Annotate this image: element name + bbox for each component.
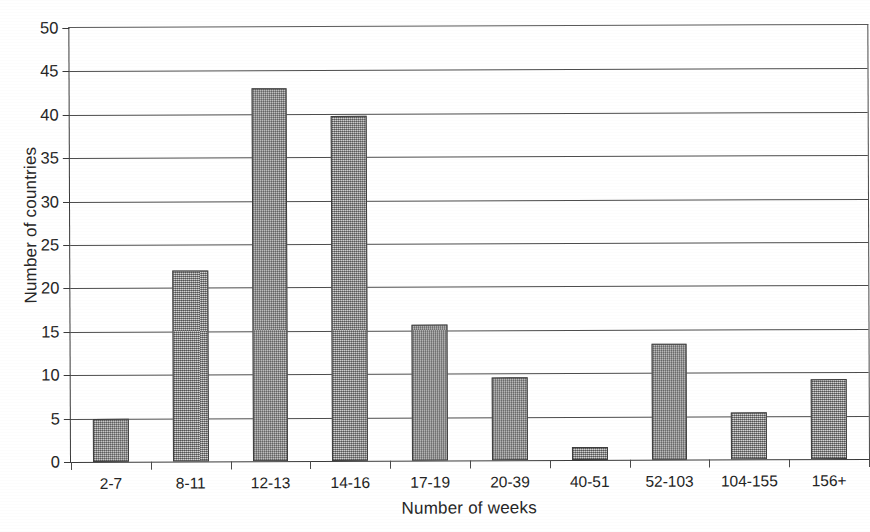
y-tick-mark	[64, 462, 71, 463]
y-tick-mark	[64, 332, 71, 333]
y-tick-mark	[63, 245, 70, 246]
x-axis-title: Number of weeks	[70, 497, 868, 520]
x-tick-mark	[310, 461, 311, 469]
x-tick-mark	[231, 461, 232, 469]
bar	[572, 447, 608, 460]
y-tick-label: 15	[41, 322, 59, 341]
gridlines-group	[69, 25, 867, 28]
y-tick-label: 35	[40, 149, 58, 168]
x-tick-label: 52-103	[645, 473, 693, 491]
x-tick-mark	[630, 460, 631, 468]
bar	[172, 271, 209, 462]
x-tick-mark	[151, 462, 152, 470]
gridline	[70, 199, 868, 203]
bar	[492, 377, 528, 460]
x-tick-mark	[789, 459, 790, 467]
bar	[731, 412, 767, 459]
bar	[93, 418, 129, 462]
bar	[651, 343, 687, 459]
x-tick-label: 156+	[812, 472, 847, 490]
y-tick-mark	[62, 28, 69, 29]
x-tick-label: 17-19	[410, 474, 450, 492]
x-tick-mark	[470, 460, 471, 468]
y-axis-ticks: 05101520253035404550	[69, 25, 867, 28]
y-tick-mark	[63, 158, 70, 159]
y-tick-label: 40	[40, 105, 58, 124]
y-tick-mark	[63, 202, 70, 203]
y-tick-label: 10	[41, 366, 59, 385]
gridline	[70, 155, 868, 159]
x-tick-label: 20-39	[490, 473, 530, 491]
plot-area: 05101520253035404550 2-78-1112-1314-1617…	[68, 24, 870, 463]
y-tick-label: 25	[41, 236, 59, 255]
bar	[811, 379, 847, 459]
y-tick-mark	[63, 115, 70, 116]
x-tick-label: 12-13	[251, 474, 291, 492]
y-tick-label: 30	[41, 192, 59, 211]
x-tick-label: 40-51	[570, 473, 610, 491]
x-axis-ticks: 2-78-1112-1314-1617-1920-3940-5152-10310…	[69, 25, 867, 28]
y-tick-label: 50	[40, 19, 58, 38]
y-tick-mark	[64, 375, 71, 376]
x-tick-label: 104-155	[721, 472, 778, 490]
x-tick-label: 8-11	[176, 474, 206, 492]
bar	[412, 324, 448, 460]
bar-chart-figure: Number of countries 05101520253035404550…	[0, 0, 870, 532]
gridline	[70, 242, 868, 246]
y-tick-label: 5	[51, 409, 60, 428]
y-tick-mark	[64, 419, 71, 420]
x-tick-mark	[550, 460, 551, 468]
y-axis-title: Number of countries	[20, 25, 42, 425]
x-tick-label: 2-7	[100, 475, 122, 493]
bar	[331, 115, 368, 461]
y-tick-label: 20	[41, 279, 59, 298]
y-tick-label: 45	[40, 62, 58, 81]
bars-group	[69, 25, 867, 28]
x-tick-mark	[709, 460, 710, 468]
gridline	[70, 68, 868, 72]
x-tick-mark	[71, 462, 72, 470]
y-tick-mark	[63, 288, 70, 289]
bar	[251, 88, 288, 461]
y-tick-mark	[63, 71, 70, 72]
gridline	[70, 112, 868, 116]
y-tick-label: 0	[51, 453, 60, 472]
x-tick-mark	[390, 461, 391, 469]
x-tick-label: 14-16	[331, 474, 371, 492]
plot-wrapper: Number of countries 05101520253035404550…	[0, 0, 870, 532]
